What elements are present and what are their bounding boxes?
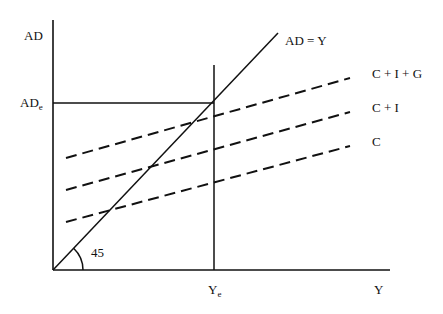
x-axis-label: Y (374, 282, 384, 297)
c-i-line (66, 112, 350, 190)
keynesian-cross-diagram: AD ADe Ye Y 45 AD = Y C + I + G C + I C (0, 0, 443, 314)
ad-equals-y-label: AD = Y (285, 33, 327, 48)
c-label: C (372, 134, 381, 149)
angle-label: 45 (91, 245, 104, 260)
ad-e-main: AD (20, 95, 39, 110)
c-i-label: C + I (372, 100, 399, 115)
y-e-sub: e (217, 289, 221, 299)
ad-equilibrium-label: ADe (20, 95, 43, 112)
c-i-g-line (66, 78, 350, 158)
c-i-g-label: C + I + G (372, 66, 422, 81)
y-axis-label: AD (24, 28, 43, 43)
c-line (66, 146, 350, 222)
ad-e-sub: e (39, 102, 43, 112)
angle-arc (74, 248, 83, 270)
y-equilibrium-label: Ye (208, 282, 221, 299)
